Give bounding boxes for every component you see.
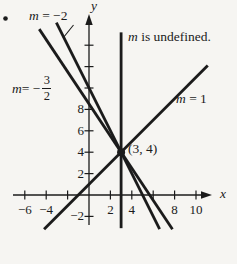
point-marker [117,148,125,156]
y-axis-label: y [91,0,97,13]
x-axis-label: x [220,186,226,201]
list-bullet-dot [3,16,8,21]
slope-value: = − [22,81,41,96]
slope-label-m-neg2: m = −2 [29,8,67,23]
slope-var: m [12,81,22,96]
y-tick-label--2: −2 [58,209,84,223]
y-tick-label-2: 2 [58,167,84,181]
slope-value: = −2 [39,8,68,23]
x-axis-arrow-icon [201,191,212,198]
slope-label-m-neg-3-2: m = − 3 2 [12,74,51,102]
fraction-denominator: 2 [44,90,50,102]
fraction-numerator: 3 [44,74,50,86]
x-tick-label--4: −4 [33,203,59,217]
slope-var: m [29,8,39,23]
point-label: (3, 4) [128,141,157,156]
slope-lines-figure: m = −2 m = − 3 2 m = 1 m is undefined. (… [0,0,237,264]
slope-var: m [176,91,186,106]
y-tick-label-6: 6 [58,124,84,138]
x-tick-label-4: 4 [119,203,145,217]
fraction-3-2: 3 2 [42,74,51,102]
y-tick-label-4: 4 [58,145,84,159]
x-tick-label-10: 10 [183,203,209,217]
label-leader-line [63,25,74,38]
slope-label-undefined: m is undefined. [128,29,211,44]
slope-var: m [128,29,138,44]
slope-label-m-1: m = 1 [176,91,207,106]
y-axis-arrow-icon [85,14,92,25]
slope-value: = 1 [186,91,207,106]
y-tick-label-8: 8 [58,102,84,116]
slope-value: is undefined. [138,29,211,44]
